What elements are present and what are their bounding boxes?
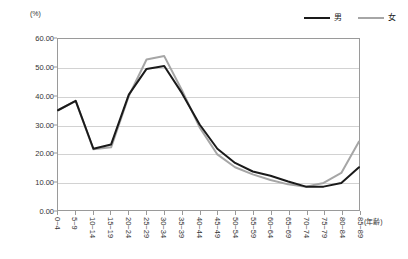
x-axis-tick-label: 10~14 bbox=[88, 217, 97, 238]
chart-legend: 男 女 bbox=[304, 14, 396, 22]
x-axis-tick-mark bbox=[182, 211, 183, 215]
legend-label-male: 男 bbox=[334, 14, 342, 22]
x-axis-tick-label: 40~44 bbox=[195, 217, 204, 238]
x-axis-tick-mark bbox=[253, 211, 254, 215]
legend-line-swatch-female bbox=[358, 17, 384, 19]
x-axis-tick-mark bbox=[57, 211, 58, 215]
y-axis-tick-label: 50.00 bbox=[2, 62, 54, 71]
x-axis-tick-mark bbox=[324, 211, 325, 215]
x-axis-tick-label: 30~34 bbox=[159, 217, 168, 238]
x-axis-tick-mark bbox=[200, 211, 201, 215]
x-axis-tick-mark bbox=[128, 211, 129, 215]
x-axis-tick-label: 45~49 bbox=[213, 217, 222, 238]
series-layer bbox=[58, 39, 359, 210]
x-axis-tick-mark bbox=[146, 211, 147, 215]
x-axis-tick-mark bbox=[360, 211, 361, 215]
legend-item-female: 女 bbox=[358, 14, 396, 22]
y-axis-ticks: 60.0050.0040.0030.0020.0010.000.00 bbox=[0, 38, 54, 211]
x-axis-tick-label: 5~9 bbox=[70, 217, 79, 230]
y-axis-tick-label: 0.00 bbox=[2, 207, 54, 216]
x-axis-tick-mark bbox=[110, 211, 111, 215]
x-axis-tick-mark bbox=[217, 211, 218, 215]
x-axis-tick-label: 25~29 bbox=[142, 217, 151, 238]
y-axis-unit-label: (%) bbox=[30, 10, 41, 17]
x-axis-tick-mark bbox=[271, 211, 272, 215]
series-line-female bbox=[58, 56, 359, 187]
x-axis-tick-label: 20~24 bbox=[124, 217, 133, 238]
y-axis-tick-label: 20.00 bbox=[2, 149, 54, 158]
x-axis-tick-label: 15~19 bbox=[106, 217, 115, 238]
x-axis-tick-mark bbox=[307, 211, 308, 215]
x-axis-tick-mark bbox=[235, 211, 236, 215]
x-axis-tick-label: 65~69 bbox=[284, 217, 293, 238]
x-axis-ticks: 0~45~910~1415~1920~2425~2930~3435~3940~4… bbox=[57, 211, 360, 259]
legend-line-swatch-male bbox=[304, 17, 330, 19]
x-axis-tick-label: 80~84 bbox=[338, 217, 347, 238]
legend-item-male: 男 bbox=[304, 14, 342, 22]
y-axis-tick-label: 60.00 bbox=[2, 34, 54, 43]
x-axis-tick-label: 55~59 bbox=[249, 217, 258, 238]
x-axis-tick-mark bbox=[75, 211, 76, 215]
x-axis-tick-label: 75~79 bbox=[320, 217, 329, 238]
plot-area bbox=[57, 38, 360, 211]
x-axis-tick-label: 70~74 bbox=[302, 217, 311, 238]
x-axis-tick-mark bbox=[342, 211, 343, 215]
x-axis-unit-label: (年齢) bbox=[364, 216, 383, 226]
legend-label-female: 女 bbox=[388, 14, 396, 22]
x-axis-tick-label: 60~64 bbox=[266, 217, 275, 238]
x-axis-tick-mark bbox=[289, 211, 290, 215]
y-axis-tick-label: 30.00 bbox=[2, 120, 54, 129]
x-axis-tick-label: 50~54 bbox=[231, 217, 240, 238]
series-line-male bbox=[58, 66, 359, 187]
y-axis-tick-label: 40.00 bbox=[2, 91, 54, 100]
x-axis-tick-mark bbox=[93, 211, 94, 215]
y-axis-tick-label: 10.00 bbox=[2, 178, 54, 187]
x-axis-tick-label: 0~4 bbox=[53, 217, 62, 230]
age-distribution-line-chart: (%) 男 女 60.0050.0040.0030.0020.0010.000.… bbox=[0, 0, 408, 259]
x-axis-tick-label: 35~39 bbox=[177, 217, 186, 238]
x-axis-tick-mark bbox=[164, 211, 165, 215]
